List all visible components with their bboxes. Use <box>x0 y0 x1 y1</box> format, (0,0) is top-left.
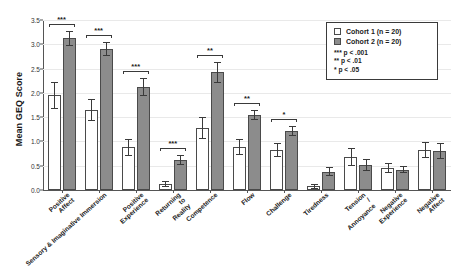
legend-swatch-icon <box>334 38 341 45</box>
error-bar <box>277 143 278 157</box>
error-bar <box>54 82 55 109</box>
bar-group <box>117 20 154 190</box>
y-axis-tick-label: 1.5 <box>31 114 40 121</box>
significance-marker: *** <box>116 63 156 70</box>
error-bar <box>366 159 367 171</box>
error-bar <box>128 139 129 156</box>
y-axis-tick-label: 3.0 <box>31 41 40 48</box>
y-axis-tick-label: 2.0 <box>31 89 40 96</box>
legend-item-label: Cohort 2 (n = 20) <box>346 38 401 45</box>
legend: Cohort 1 (n = 20)Cohort 2 (n = 20) *** p… <box>326 22 438 80</box>
x-axis-tick-label: Flow <box>240 191 256 207</box>
error-bar <box>202 117 203 138</box>
legend-entries: Cohort 1 (n = 20)Cohort 2 (n = 20) <box>334 28 431 45</box>
x-axis-tick-label: NegativeAffect <box>416 191 446 220</box>
significance-bracket <box>197 55 223 58</box>
error-bar <box>425 142 426 158</box>
significance-note: *** p < .001 <box>334 49 431 57</box>
bar <box>63 38 76 190</box>
x-axis-tick-label: NegativeExperience <box>373 191 409 226</box>
y-axis-tick-label: 0.0 <box>31 187 40 194</box>
error-bar <box>388 163 389 173</box>
bar <box>100 49 113 190</box>
legend-item[interactable]: Cohort 2 (n = 20) <box>334 38 431 45</box>
bar-group <box>80 20 117 190</box>
error-bar <box>180 155 181 165</box>
error-bar <box>292 126 293 136</box>
error-bar <box>403 166 404 174</box>
significance-note: ** p < .01 <box>334 57 431 65</box>
significance-marker: *** <box>79 27 119 34</box>
error-bar <box>239 139 240 155</box>
y-axis-tick-label: 3.5 <box>31 17 40 24</box>
y-axis-title: Mean GEQ Score <box>14 49 24 169</box>
x-axis-tick-label: Tiredness <box>302 191 330 217</box>
bar <box>248 115 261 190</box>
error-bar <box>254 110 255 120</box>
error-bar <box>314 184 315 189</box>
bar <box>285 131 298 190</box>
error-bar <box>351 148 352 165</box>
significance-marker: ** <box>190 47 230 54</box>
significance-bracket <box>49 24 75 27</box>
significance-bracket <box>123 71 149 74</box>
legend-swatch-icon <box>334 28 341 35</box>
significance-marker: * <box>264 111 304 118</box>
bar-group <box>154 20 191 190</box>
error-bar <box>91 99 92 120</box>
significance-marker: *** <box>153 140 193 147</box>
x-axis-tick-label: Tension/Annoyance <box>336 191 377 231</box>
bar <box>48 95 61 190</box>
significance-note: * p < .05 <box>334 66 431 74</box>
y-axis-tick-label: 1.0 <box>31 138 40 145</box>
significance-marker: ** <box>227 95 267 102</box>
error-bar <box>440 143 441 159</box>
error-bar <box>217 62 218 83</box>
legend-item-label: Cohort 1 (n = 20) <box>346 28 401 35</box>
x-axis-tick-label: PositiveAffect <box>47 191 76 219</box>
error-bar <box>143 78 144 95</box>
error-bar <box>165 181 166 187</box>
y-axis-tick-label: 2.5 <box>31 65 40 72</box>
bar-group <box>266 20 303 190</box>
bar <box>137 87 150 190</box>
significance-bracket <box>160 148 186 151</box>
bar-group <box>43 20 80 190</box>
significance-bracket <box>271 119 297 122</box>
y-axis-tick-label: 0.5 <box>31 162 40 169</box>
legend-item[interactable]: Cohort 1 (n = 20) <box>334 28 431 35</box>
legend-significance-notes: *** p < .001** p < .01* p < .05 <box>334 49 431 74</box>
x-axis-tick-label: Challenge <box>265 191 293 218</box>
bar <box>85 110 98 190</box>
significance-bracket <box>86 35 112 38</box>
error-bar <box>69 31 70 47</box>
x-axis-tick-label: PositiveExperience <box>114 191 150 226</box>
error-bar <box>106 42 107 56</box>
bar <box>211 72 224 190</box>
x-axis-labels: PositiveAffectSensory & Imaginative Imme… <box>43 191 451 251</box>
x-axis-tick-label: ReturningtoReality <box>154 191 192 228</box>
error-bar <box>329 167 330 177</box>
significance-bracket <box>234 103 260 106</box>
significance-marker: *** <box>42 16 82 23</box>
